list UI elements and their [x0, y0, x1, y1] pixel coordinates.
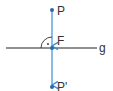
label-p: P	[57, 4, 65, 18]
right-angle-dot	[47, 43, 49, 45]
label-f: F	[57, 34, 64, 48]
point-p-prime	[50, 85, 54, 89]
label-p-prime: P'	[57, 80, 67, 91]
point-f	[50, 46, 54, 50]
reflection-diagram: P F P' g	[0, 0, 113, 91]
point-p	[50, 8, 54, 12]
right-angle-marker	[41, 37, 52, 48]
label-g: g	[99, 41, 106, 55]
